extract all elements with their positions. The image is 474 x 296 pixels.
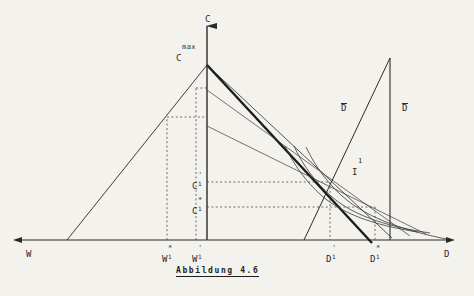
label-indifference-curve: I 1 [352,162,358,178]
label-c-max-base: C [176,53,182,63]
axis-label-c: C [205,15,211,24]
label-w1-prime-sub: 1 [198,254,202,260]
label-w1-star-sup: * [168,245,173,252]
line-descending-thin-lower [207,126,426,234]
label-d1-star: D * 1 [370,249,376,265]
label-d1-prime-sub: 1 [332,254,336,260]
axis-label-w: W [26,250,32,259]
label-d-bar-left: D [341,103,347,113]
label-w1-star-sub: 1 [168,254,172,260]
label-indifference-base: I [352,167,358,177]
figure-canvas [0,0,474,296]
label-c1-prime-sup: ' [198,172,203,179]
line-budget-left-rising [67,65,207,240]
label-indifference-sup: 1 [358,158,363,165]
label-d1-prime: D ' 1 [326,249,332,265]
label-c1-prime: C ' 1 [192,176,198,192]
line-cmax-descending-bold [207,65,372,243]
indifference-curve-1 [285,146,418,232]
label-d-bar-left-base: D [341,103,347,113]
figure-caption: Abbildung 4.6 [176,266,259,277]
label-w1-star: W * 1 [162,249,168,265]
label-d1-prime-sup: ' [332,245,337,252]
label-d1-star-sup: * [376,245,381,252]
label-c1-star-sub: 1 [198,206,202,212]
label-c-max: C max [176,48,182,64]
label-c-max-sup: max [182,44,196,51]
line-cmax-descending-thin [207,65,392,238]
label-d1-star-sub: 1 [376,254,380,260]
label-w1-prime: W ' 1 [192,249,198,265]
label-w1-prime-sup: ' [198,245,203,252]
label-d-bar-right-base: D [402,103,408,113]
label-c1-prime-sub: 1 [198,181,202,187]
axis-label-d: D [444,250,450,259]
label-d-bar-right: D [402,103,408,113]
label-c1-star: C * 1 [192,201,198,217]
label-c1-star-sup: * [198,197,203,204]
figure-page: C C max C ' 1 C * 1 W W * 1 W [0,0,474,296]
line-descending-thin-upper [207,90,410,236]
